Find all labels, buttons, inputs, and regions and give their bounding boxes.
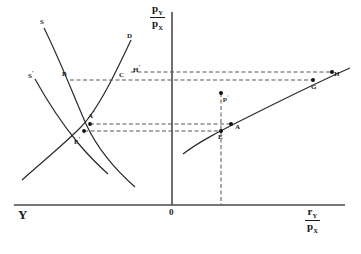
- curve-S: [44, 28, 135, 187]
- point-label-B: B: [62, 71, 67, 78]
- price-ratio-numerator: pY: [150, 3, 165, 17]
- point-marker-A-prime: [88, 122, 92, 126]
- point-label-H-prime: H': [133, 64, 140, 74]
- point-label-A: A: [235, 124, 240, 131]
- curve-right-schedule: [183, 68, 350, 154]
- axis-label-origin: 0: [169, 208, 174, 217]
- point-label-H: H: [334, 71, 339, 78]
- point-label-E-prime: E': [74, 136, 80, 146]
- economics-diagram: S S' D B C H' A' E' p° E A G H Y 0 pY pX…: [0, 0, 361, 254]
- curve-label-D: D: [127, 33, 132, 40]
- curve-label-S: S: [40, 19, 44, 26]
- point-label-p0: p°: [223, 94, 229, 103]
- point-label-E: E: [218, 134, 223, 141]
- point-marker-G: [311, 78, 315, 82]
- axis-label-Y: Y: [18, 208, 27, 221]
- resource-ratio-denominator: pX: [305, 220, 320, 235]
- price-ratio-denominator: pX: [150, 17, 165, 32]
- axis-label-price-ratio: pY pX: [150, 3, 165, 32]
- point-label-G: G: [311, 84, 316, 91]
- point-label-C: C: [119, 72, 124, 79]
- resource-ratio-numerator: rY: [305, 206, 320, 220]
- point-marker-A: [229, 122, 233, 126]
- axis-label-resource-ratio: rY pX: [305, 206, 320, 235]
- point-label-A-prime: A': [88, 110, 95, 120]
- curve-D: [22, 40, 131, 180]
- curve-label-S-prime: S': [28, 70, 34, 80]
- point-marker-E-prime: [82, 129, 86, 133]
